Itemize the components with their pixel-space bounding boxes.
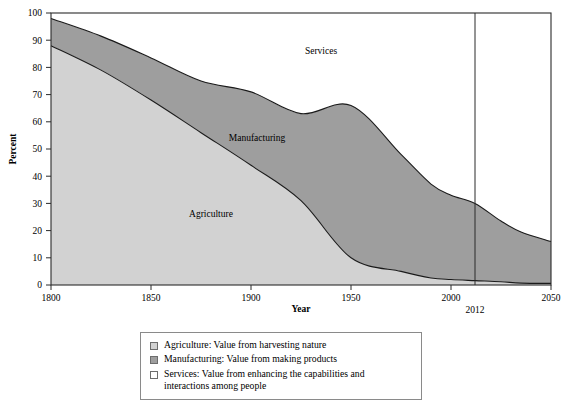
- y-tick-label: 10: [33, 253, 43, 263]
- area-label-manufacturing: Manufacturing: [229, 133, 286, 143]
- area-label-services: Services: [305, 46, 337, 56]
- y-tick-label: 20: [33, 226, 43, 236]
- legend-swatch-agriculture: [150, 342, 158, 350]
- legend-swatch-services: [150, 371, 158, 379]
- y-axis-ticks: 0102030405060708090100: [28, 8, 51, 290]
- x-tick-label: 1900: [242, 293, 261, 303]
- x-tick-label: 1950: [342, 293, 361, 303]
- legend-label-agriculture: Agriculture: Value from harvesting natur…: [164, 339, 326, 351]
- legend-item-agriculture: Agriculture: Value from harvesting natur…: [150, 339, 412, 351]
- chart-container: 0102030405060708090100 18001850190019502…: [0, 0, 569, 316]
- legend-item-services: Services: Value from enhancing the capab…: [150, 368, 412, 393]
- stacked-area-chart: 0102030405060708090100 18001850190019502…: [0, 0, 569, 316]
- y-tick-label: 80: [33, 63, 43, 73]
- legend-item-manufacturing: Manufacturing: Value from making product…: [150, 353, 412, 365]
- area-label-agriculture: Agriculture: [189, 209, 233, 219]
- x-tick-label: 2050: [542, 293, 561, 303]
- y-tick-label: 0: [37, 280, 42, 290]
- y-tick-label: 90: [33, 36, 43, 46]
- chart-legend: Agriculture: Value from harvesting natur…: [140, 332, 422, 400]
- legend-label-services: Services: Value from enhancing the capab…: [164, 368, 365, 393]
- x-tick-label: 1800: [42, 293, 61, 303]
- y-axis-title: Percent: [8, 133, 18, 165]
- x-axis-ticks: 180018501900195020002050: [42, 285, 561, 303]
- x-tick-label: 2000: [442, 293, 461, 303]
- y-tick-label: 40: [33, 172, 43, 182]
- chart-page: 0102030405060708090100 18001850190019502…: [0, 0, 569, 404]
- legend-swatch-manufacturing: [150, 356, 158, 364]
- y-tick-label: 60: [33, 117, 43, 127]
- y-tick-label: 50: [33, 144, 43, 154]
- year-2012-label: 2012: [466, 305, 485, 315]
- legend-label-manufacturing: Manufacturing: Value from making product…: [164, 353, 337, 365]
- x-tick-label: 1850: [142, 293, 161, 303]
- y-tick-label: 100: [28, 8, 43, 18]
- y-tick-label: 30: [33, 199, 43, 209]
- x-axis-title: Year: [292, 304, 312, 314]
- y-tick-label: 70: [33, 90, 43, 100]
